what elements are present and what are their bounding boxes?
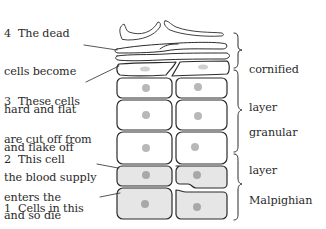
flaking-cell — [120, 21, 224, 40]
granular-cells — [117, 78, 227, 164]
dying-cells — [117, 61, 229, 76]
layer-braces — [234, 33, 242, 220]
leader-lines — [84, 45, 120, 197]
malpighian-cells — [117, 166, 227, 219]
cornified-cells — [115, 42, 230, 60]
epidermis-diagram — [0, 0, 326, 229]
